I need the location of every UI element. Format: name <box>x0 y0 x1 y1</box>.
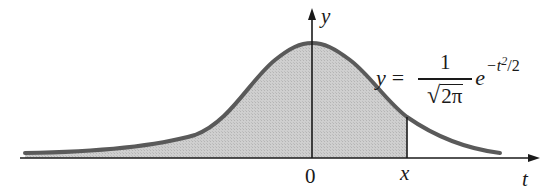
y-axis-arrow-icon <box>308 8 316 20</box>
origin-label: 0 <box>305 166 316 187</box>
t-axis-arrow-icon <box>528 154 540 162</box>
formula-radicand: 2π <box>440 84 463 107</box>
formula-numerator: 1 <box>436 50 455 78</box>
formula-fraction: 1 √ 2π <box>418 50 472 107</box>
formula-lhs: y <box>376 65 386 91</box>
t-axis-label: t <box>522 169 528 190</box>
exponent-power: 2 <box>501 54 507 68</box>
exponent-tail: /2 <box>507 57 519 74</box>
y-axis-label: y <box>321 6 330 27</box>
sqrt-icon: √ <box>427 83 440 107</box>
formula-base: e <box>475 65 485 91</box>
formula-exponent: −t2/2 <box>486 57 520 75</box>
formula-denominator: √ 2π <box>427 80 463 107</box>
exponent-text: −t <box>486 57 501 74</box>
formula-equals: = <box>392 65 404 91</box>
x-marker-label: x <box>400 163 409 184</box>
density-formula: y = 1 √ 2π e −t2/2 <box>376 50 520 107</box>
